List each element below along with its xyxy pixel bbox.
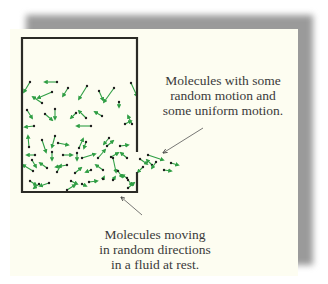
molecule — [104, 137, 110, 144]
molecule — [71, 112, 77, 118]
molecule — [62, 154, 72, 156]
molecule — [74, 168, 81, 174]
molecule — [97, 150, 105, 159]
molecule — [139, 158, 147, 164]
molecule — [106, 141, 113, 147]
molecule — [54, 108, 56, 119]
molecule — [147, 154, 163, 160]
molecule — [98, 90, 103, 100]
molecule — [78, 139, 83, 149]
molecule — [34, 183, 40, 188]
molecule — [122, 175, 128, 179]
label-line: some uniform motion. — [148, 103, 298, 118]
label-line: in random directions — [90, 242, 220, 257]
molecule — [112, 157, 116, 172]
molecule — [147, 160, 153, 166]
molecule — [95, 112, 103, 117]
molecule — [29, 180, 36, 185]
molecule — [52, 135, 56, 147]
molecule — [81, 154, 95, 159]
random-motion-leader — [121, 197, 142, 215]
molecule — [26, 109, 32, 118]
molecule — [40, 163, 48, 169]
molecule — [102, 177, 104, 180]
molecule — [86, 169, 92, 172]
molecule — [25, 125, 35, 127]
molecule — [121, 153, 128, 159]
molecule — [88, 181, 97, 183]
molecule — [77, 125, 92, 127]
molecule — [170, 162, 178, 165]
molecule — [79, 111, 87, 119]
molecule — [23, 165, 34, 172]
molecule — [56, 164, 68, 167]
leader-arrows — [121, 128, 203, 215]
uniform-motion-leader — [163, 128, 203, 153]
molecule — [44, 113, 52, 120]
molecule — [40, 182, 50, 186]
molecule — [104, 87, 115, 102]
molecule — [51, 151, 53, 160]
molecule — [112, 177, 115, 181]
molecule — [127, 179, 132, 185]
molecule — [70, 180, 77, 184]
molecule — [66, 185, 75, 191]
molecule — [76, 152, 78, 160]
label-line: Molecules with some — [148, 73, 298, 88]
molecule — [117, 170, 122, 177]
molecule — [28, 136, 30, 148]
label-random-motion: Molecules moving in random directions in… — [90, 227, 220, 272]
molecule — [118, 101, 120, 107]
label-line: random motion and — [148, 88, 298, 103]
molecule — [79, 85, 88, 99]
label-uniform-motion: Molecules with some random motion and so… — [148, 73, 298, 118]
molecule — [38, 91, 53, 98]
molecule — [57, 142, 68, 145]
molecule — [27, 154, 36, 156]
molecule — [31, 159, 36, 167]
molecule — [163, 169, 171, 171]
molecule — [138, 166, 144, 172]
molecule — [84, 141, 87, 148]
molecule — [41, 139, 46, 152]
molecule — [119, 145, 128, 147]
molecule — [124, 121, 131, 125]
molecule — [96, 165, 104, 171]
molecule — [81, 183, 86, 186]
molecule — [45, 81, 58, 83]
molecule — [24, 81, 31, 92]
label-line: Molecules moving — [90, 227, 220, 242]
molecule — [127, 183, 134, 189]
label-line: in a fluid at rest. — [90, 257, 220, 272]
molecule — [63, 87, 69, 96]
